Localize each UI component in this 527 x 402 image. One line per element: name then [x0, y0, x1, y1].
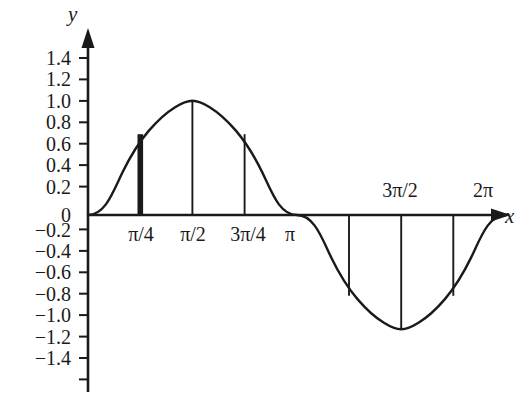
x-tick-label: π/4: [128, 224, 154, 244]
y-tick-label: −0.6: [11, 262, 71, 282]
y-tick-label: 0.6: [11, 134, 71, 154]
y-tick-label: −1.2: [11, 327, 71, 347]
y-tick-label: −0.2: [11, 220, 71, 240]
plot-canvas: [0, 0, 527, 402]
y-tick-label: 0.8: [11, 112, 71, 132]
y-tick-label: 1.4: [11, 48, 71, 68]
y-axis-arrowhead: [82, 28, 95, 48]
y-tick-label: 1.0: [11, 91, 71, 111]
y-tick-label: −0.4: [11, 241, 71, 261]
y-axis-ticks: [79, 58, 88, 379]
y-tick-label: −0.8: [11, 284, 71, 304]
y-tick-label: 1.2: [11, 69, 71, 89]
x-tick-label: 2π: [473, 180, 493, 200]
x-tick-label: 3π/2: [382, 180, 418, 200]
y-tick-label: 0.2: [11, 177, 71, 197]
y-tick-label: −1.4: [11, 348, 71, 368]
x-axis-label: x: [505, 206, 514, 227]
x-tick-label: π/2: [180, 224, 206, 244]
x-tick-label: 3π/4: [230, 224, 266, 244]
y-tick-label: −1.0: [11, 305, 71, 325]
y-tick-label: 0.4: [11, 155, 71, 175]
sine-curve-figure: y x 1.4 1.2 1.0 0.8 0.6 0.4 0.2 0 −0.2 −…: [0, 0, 527, 402]
y-axis-label: y: [68, 4, 77, 25]
x-tick-label: π: [285, 224, 295, 244]
